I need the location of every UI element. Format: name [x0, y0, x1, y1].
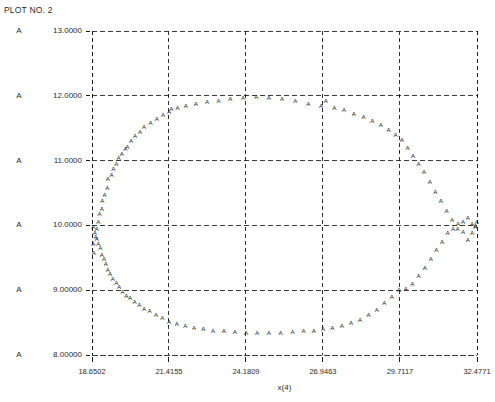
- svg-text:A: A: [404, 285, 409, 292]
- svg-text:A: A: [428, 178, 433, 185]
- svg-text:A: A: [155, 115, 160, 122]
- svg-text:A: A: [361, 113, 366, 120]
- svg-text:A: A: [324, 97, 329, 104]
- y-axis-tick-label: 10.0000: [53, 220, 82, 229]
- svg-text:A: A: [475, 218, 480, 225]
- y-axis-tick-label: 11.0000: [54, 156, 82, 165]
- svg-text:A: A: [100, 197, 105, 204]
- svg-text:A: A: [105, 184, 110, 191]
- svg-text:A: A: [241, 94, 246, 101]
- svg-text:A: A: [444, 207, 449, 214]
- x-axis-title: x(4): [278, 383, 292, 392]
- svg-text:A: A: [167, 318, 172, 325]
- x-axis-tick-label: 32.4771: [463, 367, 490, 376]
- svg-text:A: A: [211, 327, 216, 334]
- y-axis-tick: A8.00000: [0, 350, 92, 360]
- svg-text:A: A: [349, 319, 354, 326]
- y-axis-tick-label: 13.0000: [53, 26, 82, 35]
- svg-text:A: A: [96, 218, 101, 225]
- svg-text:A: A: [142, 123, 147, 130]
- svg-text:A: A: [382, 299, 387, 306]
- y-axis-tick: A10.0000: [0, 220, 92, 230]
- svg-text:A: A: [461, 228, 466, 235]
- svg-text:A: A: [470, 229, 475, 236]
- svg-text:A: A: [379, 121, 384, 128]
- svg-text:A: A: [233, 328, 238, 335]
- svg-text:A: A: [340, 322, 345, 329]
- svg-text:A: A: [102, 191, 107, 198]
- svg-text:A: A: [92, 249, 97, 256]
- svg-text:A: A: [142, 305, 147, 312]
- x-axis-tick-label: 26.9463: [309, 367, 336, 376]
- svg-text:A: A: [244, 329, 249, 336]
- tick-marks: [86, 31, 477, 362]
- svg-text:A: A: [306, 100, 311, 107]
- svg-text:A: A: [433, 188, 438, 195]
- svg-text:A: A: [390, 293, 395, 300]
- page-title: PLOT NO. 2: [4, 5, 53, 15]
- svg-text:A: A: [293, 97, 298, 104]
- x-axis-tick-label: 21.4155: [155, 367, 182, 376]
- svg-text:A: A: [160, 314, 165, 321]
- plot-canvas: AAAAAAAAAAAAAAAAAAAAAAAAAAAAAAAAAAAAAAAA…: [0, 0, 495, 402]
- svg-text:A: A: [280, 95, 285, 102]
- svg-text:A: A: [228, 95, 233, 102]
- y-axis-tick: A13.0000: [0, 26, 92, 36]
- svg-text:A: A: [466, 236, 471, 243]
- svg-text:A: A: [330, 324, 335, 331]
- y-axis-tick-label: 12.0000: [53, 91, 82, 100]
- svg-text:A: A: [192, 324, 197, 331]
- svg-text:A: A: [321, 325, 326, 332]
- x-axis-tick-label: 29.7117: [387, 367, 414, 376]
- svg-text:A: A: [417, 272, 422, 279]
- svg-text:A: A: [254, 93, 259, 100]
- series-symbol: A: [13, 285, 25, 294]
- svg-text:A: A: [201, 325, 206, 332]
- series-symbol: A: [13, 26, 25, 35]
- svg-text:A: A: [312, 327, 317, 334]
- svg-text:A: A: [278, 329, 283, 336]
- svg-text:A: A: [175, 320, 180, 327]
- y-axis-tick: A11.0000: [0, 156, 92, 166]
- svg-text:A: A: [429, 255, 434, 262]
- svg-text:A: A: [342, 106, 347, 113]
- svg-text:A: A: [440, 238, 445, 245]
- y-axis-tick-label: 8.00000: [53, 350, 82, 359]
- svg-text:A: A: [439, 197, 444, 204]
- svg-text:A: A: [267, 94, 272, 101]
- svg-text:A: A: [194, 100, 199, 107]
- svg-text:A: A: [411, 152, 416, 159]
- svg-text:A: A: [205, 98, 210, 105]
- svg-text:A: A: [169, 105, 174, 112]
- svg-text:A: A: [100, 205, 105, 212]
- svg-text:A: A: [290, 328, 295, 335]
- svg-text:A: A: [161, 111, 166, 118]
- svg-text:A: A: [417, 160, 422, 167]
- series-symbol: A: [13, 91, 25, 100]
- svg-text:A: A: [332, 104, 337, 111]
- svg-text:A: A: [217, 97, 222, 104]
- y-axis-tick: A9.00000: [0, 285, 92, 295]
- x-axis-tick-label: 24.1809: [232, 367, 259, 376]
- svg-text:A: A: [393, 131, 398, 138]
- svg-text:A: A: [423, 264, 428, 271]
- svg-text:A: A: [397, 286, 402, 293]
- svg-text:A: A: [114, 160, 119, 167]
- svg-text:A: A: [352, 110, 357, 117]
- svg-text:A: A: [450, 216, 455, 223]
- svg-text:A: A: [422, 168, 427, 175]
- series-symbol: A: [13, 350, 25, 359]
- svg-text:A: A: [109, 171, 114, 178]
- svg-text:A: A: [184, 102, 189, 109]
- svg-text:A: A: [405, 144, 410, 151]
- svg-text:A: A: [183, 322, 188, 329]
- svg-text:A: A: [222, 327, 227, 334]
- svg-text:A: A: [375, 306, 380, 313]
- svg-text:A: A: [386, 126, 391, 133]
- svg-text:A: A: [410, 280, 415, 287]
- data-markers: AAAAAAAAAAAAAAAAAAAAAAAAAAAAAAAAAAAAAAAA…: [91, 93, 479, 336]
- svg-text:A: A: [434, 246, 439, 253]
- y-axis-tick: A12.0000: [0, 91, 92, 101]
- svg-text:A: A: [148, 307, 153, 314]
- svg-text:A: A: [148, 119, 153, 126]
